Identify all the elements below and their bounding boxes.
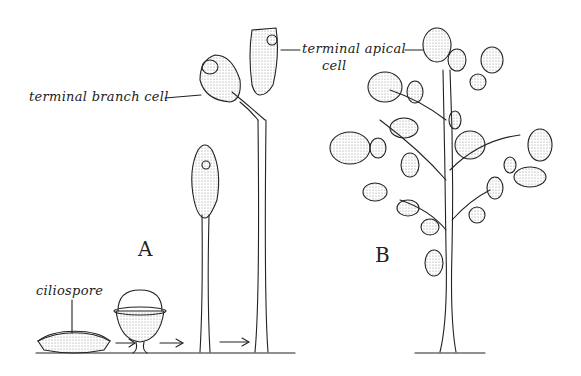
branched-colony-b bbox=[330, 28, 552, 353]
panel-label-b: B bbox=[375, 243, 390, 267]
figure-canvas: ciliospore terminal branch cell terminal… bbox=[0, 0, 581, 376]
young-stalk bbox=[192, 145, 219, 352]
arrow-2 bbox=[160, 339, 183, 347]
ciliospore-shape bbox=[38, 300, 110, 353]
arrow-3 bbox=[220, 338, 249, 346]
illustration bbox=[0, 0, 581, 376]
label-terminal-apical-cell-line2: cell bbox=[322, 58, 347, 73]
label-terminal-branch-cell: terminal branch cell bbox=[29, 89, 169, 104]
mature-stalk bbox=[165, 28, 300, 352]
panel-label-a: A bbox=[138, 237, 152, 261]
label-terminal-apical-cell-line1: terminal apical bbox=[302, 41, 406, 56]
label-ciliospore: ciliospore bbox=[36, 283, 103, 298]
branch-cell-pointer bbox=[165, 95, 201, 98]
